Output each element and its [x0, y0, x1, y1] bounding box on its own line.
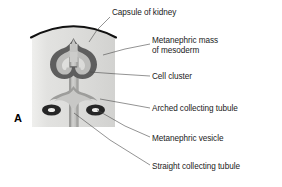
label-metanephric-mass-line1: Metanephric mass	[152, 36, 218, 46]
label-arched-collecting-tubule: Arched collecting tubule	[152, 104, 238, 114]
kidney-diagram-artwork	[0, 0, 282, 187]
metanephric-vesicle-right	[86, 104, 105, 115]
panel-letter-a: A	[14, 112, 22, 124]
label-capsule-of-kidney: Capsule of kidney	[112, 8, 176, 18]
label-metanephric-vesicle: Metanephric vesicle	[152, 134, 223, 144]
kidney-development-figure: A Capsule of kidney Metanephric mass of …	[0, 0, 282, 187]
label-straight-collecting-tubule: Straight collecting tubule	[152, 162, 240, 172]
label-cell-cluster: Cell cluster	[152, 72, 192, 82]
metanephric-vesicle-left	[42, 104, 61, 115]
label-metanephric-mass-line2: of mesoderm	[152, 46, 199, 56]
